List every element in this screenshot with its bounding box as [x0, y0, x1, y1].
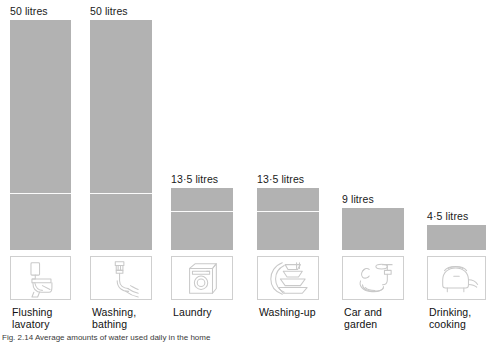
- icon-box-washing-up: [257, 256, 319, 300]
- icon-box-flushing-lavatory: [10, 256, 71, 300]
- bar-value-label-laundry: 13·5 litres: [171, 173, 218, 185]
- chart-column-laundry: 13·5 litresLaundry: [171, 0, 233, 344]
- bar-split-line-washing-up: [257, 211, 319, 212]
- column-caption-drinking-cooking: Drinking, cooking: [429, 306, 471, 330]
- bar-value-label-drinking-cooking: 4·5 litres: [427, 210, 468, 222]
- bar-wrap-drinking-cooking: [427, 225, 486, 250]
- chart-column-flushing-lavatory: 50 litresFlushing lavatory: [10, 0, 71, 344]
- column-caption-washing-bathing: Washing, bathing: [92, 306, 136, 330]
- icon-box-drinking-cooking: [427, 256, 486, 300]
- bar-wrap-flushing-lavatory: [10, 20, 71, 250]
- tap-bath-icon: [91, 257, 151, 299]
- washing-machine-icon: [172, 257, 232, 299]
- bar-value-label-washing-bathing: 50 litres: [90, 5, 128, 17]
- bar-wrap-washing-bathing: [90, 20, 152, 250]
- column-caption-flushing-lavatory: Flushing lavatory: [12, 306, 53, 330]
- bar-washing-bathing: [90, 20, 152, 250]
- bar-wrap-car-and-garden: [342, 208, 404, 250]
- figure-caption: Fig. 2.14 Average amounts of water used …: [2, 333, 484, 343]
- icon-box-washing-bathing: [90, 256, 152, 300]
- chart-column-washing-bathing: 50 litresWashing, bathing: [90, 0, 152, 344]
- column-caption-laundry: Laundry: [173, 306, 212, 318]
- bar-split-line-washing-bathing: [90, 193, 152, 194]
- bar-laundry: [171, 188, 233, 250]
- column-caption-washing-up: Washing-up: [259, 306, 316, 318]
- kettle-icon: [428, 257, 485, 299]
- bar-car-and-garden: [342, 208, 404, 250]
- chart-column-drinking-cooking: 4·5 litresDrinking, cooking: [427, 0, 486, 344]
- bar-value-label-washing-up: 13·5 litres: [257, 173, 304, 185]
- chart-column-washing-up: 13·5 litresWashing-up: [257, 0, 319, 344]
- hose-tap-icon: [343, 257, 403, 299]
- bar-washing-up: [257, 188, 319, 250]
- toilet-icon: [11, 257, 70, 299]
- bar-wrap-washing-up: [257, 188, 319, 250]
- column-caption-car-and-garden: Car and garden: [344, 306, 382, 330]
- dishes-icon: [258, 257, 318, 299]
- icon-box-car-and-garden: [342, 256, 404, 300]
- bar-drinking-cooking: [427, 225, 486, 250]
- icon-box-laundry: [171, 256, 233, 300]
- bar-flushing-lavatory: [10, 20, 71, 250]
- bar-split-line-laundry: [171, 211, 233, 212]
- bar-split-line-flushing-lavatory: [10, 193, 71, 194]
- chart-column-car-and-garden: 9 litresCar and garden: [342, 0, 404, 344]
- bar-wrap-laundry: [171, 188, 233, 250]
- water-usage-bar-chart: 50 litresFlushing lavatory50 litresWashi…: [0, 0, 486, 344]
- bar-value-label-car-and-garden: 9 litres: [342, 193, 374, 205]
- bar-value-label-flushing-lavatory: 50 litres: [10, 5, 48, 17]
